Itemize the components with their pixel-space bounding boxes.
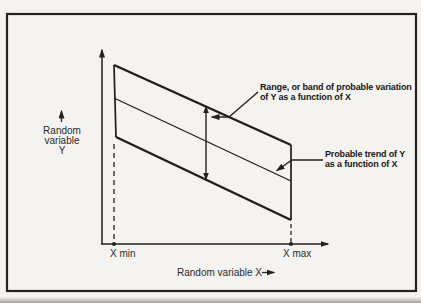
figure-canvas: Random variable Y Random variable X X mi… — [0, 0, 421, 303]
trend-line — [114, 98, 291, 181]
trend-callout-line: as a function of X — [325, 160, 405, 170]
y-axis-label: Random variable Y — [27, 126, 97, 156]
range-band-callout: Range, or band of probable variation of … — [260, 83, 412, 102]
x-max-label: X max — [283, 248, 311, 259]
band-left-edge — [114, 65, 116, 137]
trend-callout: Probable trend of Y as a function of X — [325, 150, 405, 169]
range-band-callout-line: of Y as a function of X — [260, 93, 412, 103]
x-min-label: X min — [110, 248, 136, 259]
band-top-edge — [114, 65, 291, 145]
xmin-tick-dot — [112, 242, 116, 246]
scan-edge-shadow — [0, 297, 421, 303]
x-axis-label: Random variable X — [177, 267, 262, 278]
trend-leader-line — [277, 160, 323, 171]
xmax-tick-dot — [289, 242, 293, 246]
y-axis-label-line: Y — [27, 146, 97, 156]
band-bottom-edge — [116, 137, 291, 220]
